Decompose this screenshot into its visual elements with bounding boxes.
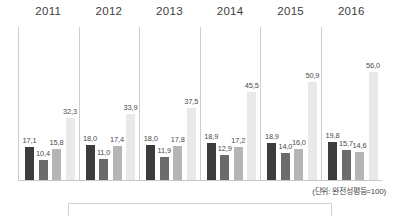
bar-value-label: 56,0	[358, 61, 388, 70]
bar-group-2015: 201518,914,016,050,9	[260, 27, 321, 180]
bar-slot: 18,0	[146, 27, 155, 180]
bar-2016-s2[interactable]	[355, 152, 364, 180]
bar-2014-s2[interactable]	[234, 147, 243, 180]
bar-group-2011: 201117,110,415,832,3	[18, 27, 79, 180]
bar-2014-s1[interactable]	[220, 155, 229, 180]
bar-2016-s1[interactable]	[342, 150, 351, 180]
bar-2013-s3[interactable]	[187, 108, 196, 181]
bars-wrap: 19,815,714,656,0	[328, 27, 378, 180]
year-label-2011: 2011	[18, 5, 79, 17]
bar-group-2013: 201318,011,917,837,5	[139, 27, 200, 180]
chart-container: 201117,110,415,832,3201218,011,017,433,9…	[0, 0, 400, 216]
bar-slot: 18,9	[267, 27, 276, 180]
group-separator	[260, 27, 261, 180]
bar-2011-s1[interactable]	[39, 160, 48, 180]
bars-wrap: 18,011,917,837,5	[146, 27, 196, 180]
bar-2012-s2[interactable]	[113, 146, 122, 180]
bar-slot: 15,8	[52, 27, 61, 180]
bar-2011-s3[interactable]	[66, 118, 75, 180]
bar-slot: 18,9	[207, 27, 216, 180]
legend-box	[68, 203, 332, 216]
bar-slot: 19,8	[328, 27, 337, 180]
bar-slot: 56,0	[369, 27, 378, 180]
bars-wrap: 18,914,016,050,9	[267, 27, 317, 180]
bar-group-2012: 201218,011,017,433,9	[79, 27, 140, 180]
year-label-2015: 2015	[260, 5, 321, 17]
group-separator	[18, 27, 19, 180]
bar-slot: 16,0	[294, 27, 303, 180]
year-label-2012: 2012	[79, 5, 140, 17]
bar-2015-s2[interactable]	[294, 149, 303, 180]
bar-2012-s3[interactable]	[126, 114, 135, 180]
bar-2016-s3[interactable]	[369, 72, 378, 180]
unit-footnote: (단위: 완전성평등=100)	[312, 185, 386, 196]
group-separator	[139, 27, 140, 180]
bar-2015-s1[interactable]	[281, 153, 290, 180]
bar-slot: 12,9	[220, 27, 229, 180]
bar-2014-s3[interactable]	[247, 92, 256, 180]
bar-slot: 32,3	[66, 27, 75, 180]
bar-slot: 17,2	[234, 27, 243, 180]
axis-baseline	[18, 180, 382, 181]
group-separator	[79, 27, 80, 180]
bars-wrap: 18,011,017,433,9	[86, 27, 136, 180]
bar-slot: 37,5	[187, 27, 196, 180]
bar-slot: 18,0	[86, 27, 95, 180]
plot-area: 201117,110,415,832,3201218,011,017,433,9…	[18, 27, 382, 181]
bar-2013-s1[interactable]	[160, 157, 169, 180]
bar-group-2016: 201619,815,714,656,0	[321, 27, 382, 180]
year-label-2016: 2016	[321, 5, 382, 17]
bar-slot: 33,9	[126, 27, 135, 180]
bar-slot: 14,6	[355, 27, 364, 180]
bar-slot: 14,0	[281, 27, 290, 180]
bar-slot: 15,7	[342, 27, 351, 180]
bar-group-2014: 201418,912,917,245,5	[200, 27, 261, 180]
bar-slot: 10,4	[39, 27, 48, 180]
bar-slot: 11,9	[160, 27, 169, 180]
year-label-2013: 2013	[139, 5, 200, 17]
year-label-2014: 2014	[200, 5, 261, 17]
bar-2013-s2[interactable]	[173, 146, 182, 180]
bars-wrap: 18,912,917,245,5	[207, 27, 257, 180]
bar-2015-s3[interactable]	[308, 82, 317, 180]
group-separator	[200, 27, 201, 180]
bars-wrap: 17,110,415,832,3	[25, 27, 75, 180]
bar-slot: 11,0	[99, 27, 108, 180]
bar-2012-s1[interactable]	[99, 159, 108, 180]
bar-2011-s2[interactable]	[52, 149, 61, 180]
bar-slot: 50,9	[308, 27, 317, 180]
group-separator	[321, 27, 322, 180]
bar-slot: 45,5	[247, 27, 256, 180]
